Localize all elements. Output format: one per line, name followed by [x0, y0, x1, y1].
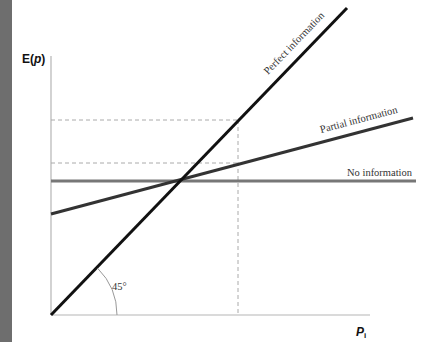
- partial-information-label: Partial information: [319, 104, 400, 135]
- x-axis-label: Pi: [356, 325, 366, 340]
- no-information-label: No information: [347, 167, 413, 178]
- perfect-information-line: [51, 8, 347, 315]
- perfect-information-label: Perfect information: [262, 9, 327, 76]
- y-axis-label: E(p): [22, 52, 45, 66]
- angle-label: 45°: [112, 281, 127, 292]
- partial-information-line: [51, 118, 413, 214]
- information-diagram: 45° Perfect information Partial informat…: [0, 0, 443, 342]
